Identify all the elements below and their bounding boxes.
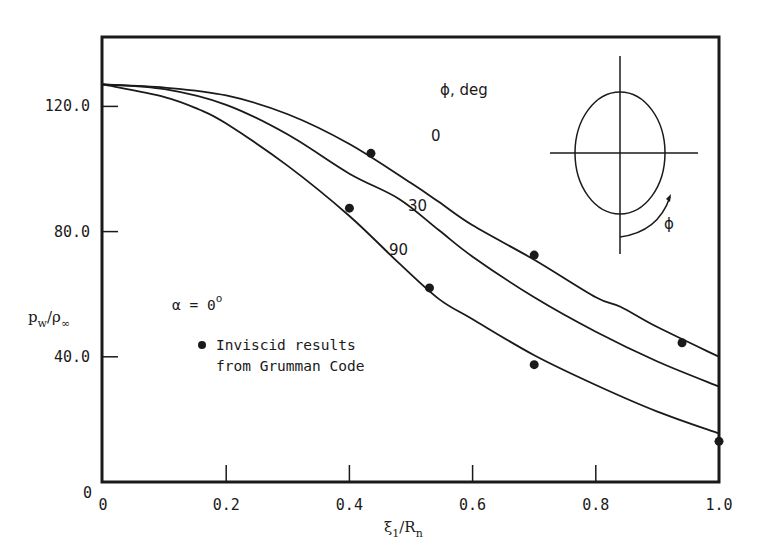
inviscid-data-point [345, 204, 354, 213]
legend-marker-icon [198, 341, 206, 349]
alpha-value: α = 0 [172, 297, 216, 313]
inviscid-data-point [530, 360, 539, 369]
inset-ellipse-diagram: ϕ [550, 56, 698, 254]
curve-label-90: 90 [389, 241, 408, 259]
x-title-slash: /R [399, 518, 416, 536]
inviscid-data-point [678, 338, 687, 347]
inviscid-data-point [366, 149, 375, 158]
x-title-sub2: n [416, 527, 423, 540]
y-tick-label: 0 [83, 484, 92, 502]
phi-arrowhead-icon [666, 194, 671, 202]
axis-tick-labels: 00.20.40.60.81.0040.080.0120.0 [45, 97, 733, 514]
x-title-main: ξ [384, 518, 392, 536]
inviscid-data-point [425, 283, 434, 292]
alpha-label: α = 0o [172, 292, 222, 313]
x-tick-label: 1.0 [705, 496, 732, 514]
y-title-slash: /ρ [47, 308, 61, 326]
x-tick-label: 0.8 [582, 496, 609, 514]
legend-line-1: Inviscid results [216, 337, 356, 353]
x-tick-label: 0.2 [213, 496, 240, 514]
y-tick-label: 40.0 [54, 348, 90, 366]
y-axis-title: pw/ρ∞ [28, 308, 70, 330]
x-tick-label: 0.6 [459, 496, 486, 514]
chart-figure: 00.20.40.60.81.0040.080.0120.0 0 30 90 ϕ… [0, 0, 769, 560]
x-title-sub1: 1 [392, 527, 399, 540]
plot-frame [102, 37, 719, 482]
y-title-sub2: ∞ [61, 317, 70, 330]
legend-line-2: from Grumman Code [216, 358, 364, 374]
curve-label-0: 0 [431, 127, 441, 145]
legend-title: ϕ, deg [440, 81, 488, 99]
alpha-degree: o [216, 292, 223, 305]
y-title-main: p [28, 308, 38, 326]
inviscid-data-point [530, 251, 539, 260]
axis-ticks [102, 106, 596, 482]
y-tick-label: 120.0 [45, 97, 90, 115]
curves [103, 84, 719, 433]
x-tick-label: 0.4 [336, 496, 363, 514]
x-tick-label: 0 [98, 496, 107, 514]
y-tick-label: 80.0 [54, 223, 90, 241]
curve-label-30: 30 [408, 197, 427, 215]
curve-phi-0 [103, 84, 719, 356]
x-axis-title: ξ1/Rn [384, 518, 423, 540]
inset-phi-label: ϕ [664, 215, 674, 233]
curve-phi-90 [103, 84, 719, 433]
inviscid-data-point [715, 437, 724, 446]
